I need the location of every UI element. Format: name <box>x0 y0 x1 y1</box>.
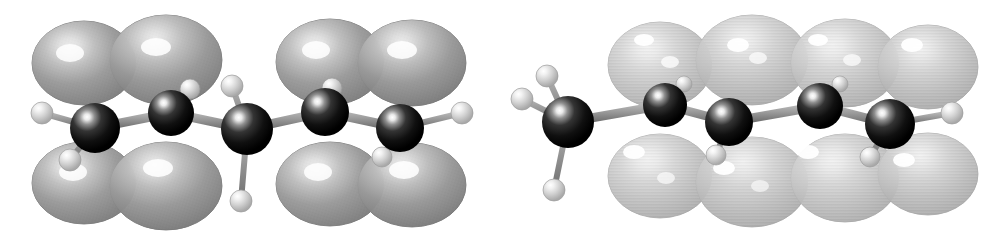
hydrogen-atom <box>451 102 473 124</box>
hydrogen-atom <box>860 147 880 167</box>
carbon-atom <box>643 83 687 127</box>
hydrogen-atom <box>230 190 252 212</box>
hydrogen-atom <box>941 102 963 124</box>
hydrogen-atom <box>511 88 533 110</box>
carbon-atom <box>301 88 349 136</box>
carbon-atom <box>542 96 594 148</box>
carbon-atom <box>148 90 194 136</box>
conjugated-diene-panel <box>492 0 984 241</box>
carbon-atom <box>221 103 273 155</box>
isolated-diene-scene <box>0 0 492 241</box>
hydrogen-atom <box>706 145 726 165</box>
carbon-atom <box>376 104 424 152</box>
carbon-atom <box>865 99 915 149</box>
hydrogen-atom <box>59 149 81 171</box>
molecular-orbital-figure: Isolated (non-conjugated) pi systems Con… <box>0 0 984 241</box>
hydrogen-atom <box>31 102 53 124</box>
hydrogen-atom <box>372 147 392 167</box>
hydrogen-atom <box>543 179 565 201</box>
carbon-atom <box>797 83 843 129</box>
hydrogen-atom <box>536 65 558 87</box>
carbon-atom <box>70 103 120 153</box>
isolated-diene-panel <box>0 0 492 241</box>
conjugated-diene-scene <box>492 0 984 241</box>
carbon-atom <box>705 98 753 146</box>
hydrogen-atom <box>221 75 243 97</box>
